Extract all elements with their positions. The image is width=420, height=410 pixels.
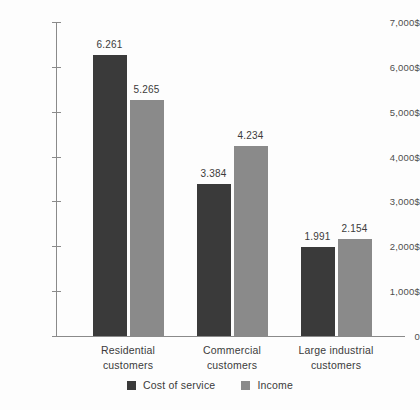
category-label-line: customers: [203, 358, 261, 373]
bar-value-label: 3.384: [200, 168, 226, 179]
x-axis-line: [56, 336, 405, 337]
legend-label: Cost of service: [143, 379, 215, 391]
legend-item: Income: [241, 379, 293, 391]
bar: [338, 239, 372, 336]
bar: [93, 55, 127, 336]
category-label-line: Commercial: [203, 343, 261, 358]
legend-swatch-icon: [127, 381, 136, 390]
bar: [197, 184, 231, 336]
bar-value-label: 5.265: [133, 84, 159, 95]
bar-value-label: 6.261: [96, 39, 122, 50]
legend-swatch-icon: [241, 381, 250, 390]
legend-item: Cost of service: [127, 379, 215, 391]
category-label-line: customers: [299, 358, 374, 373]
bar-value-label: 2.154: [341, 223, 367, 234]
chart-legend: Cost of serviceIncome: [0, 379, 420, 391]
category-label-line: customers: [101, 358, 155, 373]
bar-value-label: 4.234: [237, 130, 263, 141]
category-label-line: Residential: [101, 343, 155, 358]
plot-area: 6.2615.2653.3844.2341.9912.154: [56, 22, 405, 336]
bar: [301, 247, 335, 336]
x-axis-category-label: Residentialcustomers: [101, 343, 155, 373]
x-axis-category-label: Large industrialcustomers: [299, 343, 374, 373]
legend-label: Income: [257, 379, 293, 391]
bar: [234, 146, 268, 336]
x-axis-category-label: Commercialcustomers: [203, 343, 261, 373]
bar-chart: 01,000$2,000$3,000$4,000$5,000$6,000$7,0…: [0, 0, 420, 410]
category-label-line: Large industrial: [299, 343, 374, 358]
bar: [130, 100, 164, 336]
bar-value-label: 1.991: [304, 231, 330, 242]
